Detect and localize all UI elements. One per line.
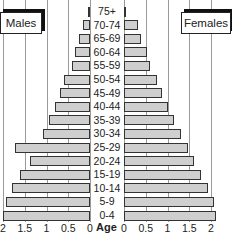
bar-males <box>12 183 90 193</box>
x-tick-left: 2 <box>0 222 6 234</box>
age-group-label: 15-19 <box>91 168 123 181</box>
age-group-label: 75+ <box>91 5 123 18</box>
bar-females <box>124 156 194 166</box>
bar-females <box>124 143 188 153</box>
bar-males <box>6 197 90 207</box>
bar-females <box>124 129 181 139</box>
age-axis-label: Age <box>96 221 117 233</box>
x-tick-left: 0.5 <box>61 222 76 234</box>
x-tick-left: 0 <box>87 222 93 234</box>
age-group-label: 10-14 <box>91 182 123 195</box>
legend-males-label: Males <box>6 17 37 29</box>
age-group-label: 40-44 <box>91 100 123 113</box>
age-group-label: 45-49 <box>91 87 123 100</box>
bar-males <box>3 211 90 221</box>
age-group-label: 20-24 <box>91 155 123 168</box>
bar-females <box>124 75 157 85</box>
age-group-label: 25-29 <box>91 141 123 154</box>
age-group-label: 70-74 <box>91 19 123 32</box>
age-group-label: 30-34 <box>91 127 123 140</box>
age-group-label: 65-69 <box>91 32 123 45</box>
age-group-label: 55-59 <box>91 59 123 72</box>
bar-males <box>83 20 90 30</box>
bar-females <box>124 88 162 98</box>
age-group-label: 60-64 <box>91 46 123 59</box>
x-tick-left: 1.5 <box>17 222 32 234</box>
bar-females <box>124 7 126 17</box>
x-tick-left: 1 <box>44 222 50 234</box>
bar-males <box>64 75 90 85</box>
bar-females <box>124 211 216 221</box>
bar-males <box>72 61 90 71</box>
x-tick-right: 1.5 <box>182 222 197 234</box>
bar-males <box>79 34 90 44</box>
x-tick-right: 2 <box>208 222 214 234</box>
bar-males <box>75 47 90 57</box>
bar-males <box>88 7 90 17</box>
bar-females <box>124 102 168 112</box>
bar-males <box>55 102 90 112</box>
x-tick-right: 0.5 <box>138 222 153 234</box>
bar-males <box>49 115 90 125</box>
age-group-label: 50-54 <box>91 73 123 86</box>
legend-females: Females <box>181 12 231 34</box>
age-group-label: 35-39 <box>91 114 123 127</box>
bar-females <box>124 47 147 57</box>
bar-males <box>60 88 90 98</box>
legend-males: Males <box>0 12 42 34</box>
bar-males <box>30 156 90 166</box>
bar-females <box>124 170 201 180</box>
bar-females <box>124 34 141 44</box>
x-tick-right: 1 <box>165 222 171 234</box>
x-tick-right: 0 <box>121 222 127 234</box>
bar-females <box>124 20 138 30</box>
bar-females <box>124 197 214 207</box>
age-group-label: 5-9 <box>91 195 123 208</box>
bar-females <box>124 61 150 71</box>
bar-males <box>43 129 90 139</box>
legend-females-label: Females <box>184 17 228 29</box>
bar-females <box>124 183 208 193</box>
bar-males <box>15 143 90 153</box>
bar-males <box>20 170 90 180</box>
bar-females <box>124 115 174 125</box>
